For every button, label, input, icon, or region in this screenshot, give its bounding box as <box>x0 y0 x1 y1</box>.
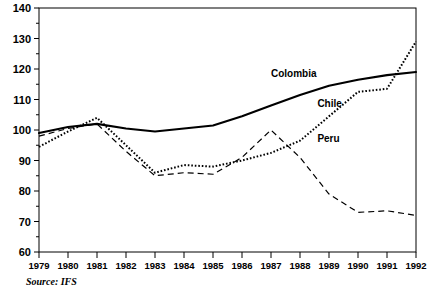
x-tick-label: 1992 <box>405 260 426 271</box>
x-tick-label: 1979 <box>28 260 49 271</box>
y-tick-label: 140 <box>13 2 31 14</box>
x-axis-tick-labels: 1979198019811982198319841985198619871988… <box>28 260 426 271</box>
line-chart: 14013012011010090807060 1979198019811982… <box>0 0 429 289</box>
y-tick-label: 130 <box>13 33 31 45</box>
series-label-peru: Peru <box>317 133 339 144</box>
x-tick-label: 1989 <box>318 260 339 271</box>
y-tick-label: 110 <box>13 94 31 106</box>
y-tick-label: 70 <box>19 216 31 228</box>
chart-figure: 14013012011010090807060 1979198019811982… <box>0 0 429 289</box>
x-tick-label: 1983 <box>144 260 165 271</box>
x-tick-label: 1988 <box>289 260 310 271</box>
series-label-colombia: Colombia <box>271 68 317 79</box>
series-label-chile: Chile <box>317 98 342 109</box>
x-tick-label: 1985 <box>202 260 224 271</box>
x-tick-label: 1990 <box>347 260 368 271</box>
y-tick-label: 80 <box>19 185 31 197</box>
y-axis-ticks <box>34 8 39 252</box>
x-tick-label: 1986 <box>231 260 252 271</box>
y-tick-label: 120 <box>13 63 31 75</box>
y-axis-tick-labels: 14013012011010090807060 <box>13 2 31 258</box>
y-tick-label: 90 <box>19 155 31 167</box>
x-tick-label: 1991 <box>376 260 398 271</box>
x-tick-label: 1987 <box>260 260 281 271</box>
x-tick-label: 1981 <box>86 260 108 271</box>
source-note: Source: IFS <box>26 276 77 287</box>
x-tick-label: 1984 <box>173 260 195 271</box>
x-tick-label: 1982 <box>115 260 136 271</box>
y-tick-label: 60 <box>19 246 31 258</box>
y-tick-label: 100 <box>13 124 31 136</box>
plot-frame <box>39 8 416 252</box>
x-axis-ticks <box>39 252 416 258</box>
x-tick-label: 1980 <box>57 260 78 271</box>
